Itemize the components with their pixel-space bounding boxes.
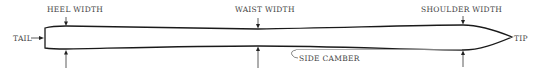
tail-arrow-head <box>39 36 44 40</box>
waist-top-arrow-head <box>256 24 260 29</box>
shoulder-top-arrow-head <box>461 20 465 25</box>
shoulder-bottom-arrow-head <box>461 51 465 56</box>
ski-outline <box>45 25 512 50</box>
heel-bottom-arrow-head <box>64 50 68 55</box>
side-camber-leader <box>292 50 299 58</box>
heel-width-label: HEEL WIDTH <box>47 6 103 14</box>
side-camber-label: SIDE CAMBER <box>299 55 360 63</box>
waist-width-label: WAIST WIDTH <box>235 6 295 14</box>
waist-bottom-arrow-head <box>256 47 260 52</box>
ski-diagram: TAIL HEEL WIDTH WAIST WIDTH SHOULDER WID… <box>0 0 543 74</box>
shoulder-width-label: SHOULDER WIDTH <box>421 6 502 14</box>
tail-label: TAIL <box>13 35 32 43</box>
tip-label: TIP <box>514 35 528 43</box>
heel-top-arrow-head <box>64 22 68 27</box>
